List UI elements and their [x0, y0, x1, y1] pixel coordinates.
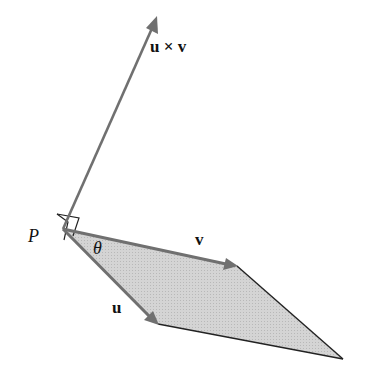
diagram-canvas: u × v v u P θ	[0, 0, 380, 384]
cross-product-label: u × v	[150, 37, 186, 57]
vector-diagram	[0, 0, 380, 384]
point-p-label: P	[28, 226, 39, 247]
u-label: u	[112, 298, 121, 318]
v-label: v	[195, 230, 204, 250]
cross-product-arrow	[63, 26, 153, 229]
angle-theta-label: θ	[93, 238, 102, 259]
